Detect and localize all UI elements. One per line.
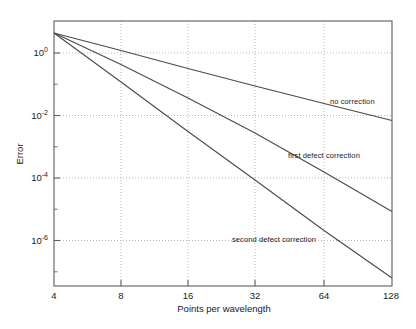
y-axis-title: Error [14,143,25,164]
x-axis-title: Points per wavelength [177,303,270,314]
figure-canvas: 100 10-2 10-4 10-6 4 8 16 32 64 128 Poin… [0,0,416,329]
xtick-label-32: 32 [250,291,261,301]
annotation-no-correction: no correction [330,97,375,106]
ytick-label-1e0: 100 [22,48,48,58]
plot-area [0,0,416,329]
annotation-second-defect-correction: second defect correction [232,235,316,244]
xtick-label-16: 16 [183,291,194,301]
xtick-label-8: 8 [118,291,123,301]
xtick-label-4: 4 [51,291,56,301]
xtick-label-128: 128 [383,291,399,301]
ytick-label-1e-6: 10-6 [22,236,48,246]
annotation-first-defect-correction: first defect correction [288,151,360,160]
ytick-exponent: -4 [42,171,48,178]
ytick-exponent: -6 [42,234,48,241]
ytick-label-1e-4: 10-4 [22,173,48,183]
ytick-exponent: 0 [44,46,48,53]
ytick-mantissa: 10 [34,47,45,58]
xtick-label-64: 64 [319,291,330,301]
ytick-mantissa: 10 [31,172,42,183]
ytick-exponent: -2 [42,109,48,116]
ytick-label-1e-2: 10-2 [22,111,48,121]
ytick-mantissa: 10 [31,110,42,121]
ytick-mantissa: 10 [31,235,42,246]
